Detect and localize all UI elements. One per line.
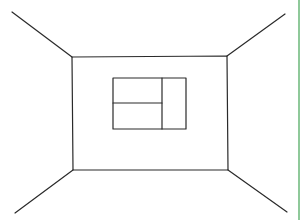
floor-right-edge <box>228 170 287 212</box>
ceiling-left-edge <box>12 12 72 57</box>
room-sketch <box>0 0 301 220</box>
green-border-line <box>298 0 300 220</box>
back-wall <box>72 56 228 170</box>
ceiling-right-edge <box>227 14 285 56</box>
right-border <box>298 0 301 220</box>
floor-left-edge <box>15 170 73 213</box>
